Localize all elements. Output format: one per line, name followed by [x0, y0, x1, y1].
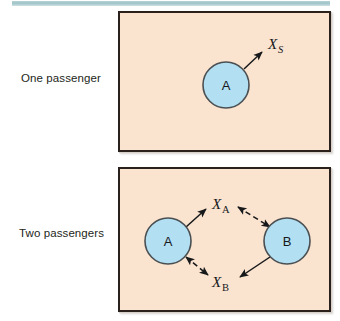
vector-label-xs-base: X	[267, 36, 278, 52]
arrow-xs	[244, 52, 262, 69]
panel-two-diagram: A B X A X B	[120, 169, 329, 310]
vector-label-xa-subscript: A	[222, 204, 230, 215]
row-label-two-passengers: Two passengers	[19, 227, 104, 239]
circle-a-letter: A	[222, 78, 231, 93]
figure-canvas: One passenger A X S Two passengers	[0, 0, 340, 321]
panel-one-passenger: A X S	[118, 11, 331, 152]
panel-one-diagram: A X S	[120, 13, 329, 150]
circle-b-letter: B	[283, 234, 292, 249]
circle-a-letter: A	[164, 234, 173, 249]
arrow-b-to-xb	[240, 257, 270, 277]
vector-label-xs-subscript: S	[278, 44, 284, 55]
panel-two-passengers: A B X A X B	[118, 167, 331, 312]
arrow-a-to-xb	[186, 257, 208, 275]
vector-label-xb-subscript: B	[222, 282, 229, 293]
row-label-one-passenger: One passenger	[21, 72, 101, 84]
arrow-xa-to-b	[238, 207, 270, 227]
vector-label-xb-base: X	[211, 274, 222, 290]
top-rule-divider	[12, 1, 330, 6]
vector-label-xa-base: X	[211, 196, 222, 212]
arrow-a-to-xa	[186, 209, 206, 227]
